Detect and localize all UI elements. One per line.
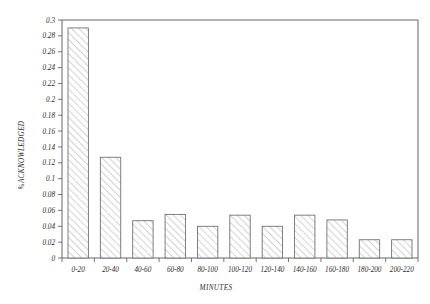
x-tick-label: 20-40	[102, 266, 119, 274]
y-tick-label: 0.18	[42, 112, 55, 120]
y-tick-label: 0.08	[42, 191, 55, 199]
bar	[295, 215, 315, 258]
bar	[359, 240, 379, 258]
x-tick-label: 160-180	[325, 266, 349, 274]
y-axis-title: %ACKNOWLEDGED	[18, 120, 26, 189]
y-tick-label: 0.12	[42, 159, 55, 167]
x-tick-label: 0-20	[72, 266, 86, 274]
x-tick-label: 200-220	[390, 266, 414, 274]
bar	[165, 214, 185, 258]
x-axis-tick-labels: 0-2020-4040-6060-8080-100100-120120-1401…	[72, 266, 415, 274]
histogram-chart: 00.020.040.060.080.10.120.140.160.180.20…	[0, 0, 430, 304]
bar	[262, 226, 282, 258]
bar	[100, 157, 120, 258]
y-tick-label: 0	[51, 255, 55, 263]
x-tick-label: 140-160	[293, 266, 317, 274]
chart-canvas: 00.020.040.060.080.10.120.140.160.180.20…	[0, 0, 430, 304]
x-tick-label: 80-100	[197, 266, 218, 274]
x-tick-label: 180-200	[357, 266, 381, 274]
y-tick-label: 0.06	[42, 207, 55, 215]
bar-series	[68, 28, 412, 258]
x-tick-label: 40-60	[135, 266, 152, 274]
bar	[197, 226, 217, 258]
x-tick-label: 100-120	[228, 266, 252, 274]
y-axis-ticks: 00.020.040.060.080.10.120.140.160.180.20…	[42, 17, 62, 263]
y-tick-label: 0.02	[42, 239, 55, 247]
x-tick-label: 120-140	[260, 266, 284, 274]
x-tick-label: 60-80	[167, 266, 184, 274]
x-axis-title: MINUTES	[199, 284, 233, 292]
bar	[327, 220, 347, 258]
y-tick-label: 0.26	[42, 48, 55, 56]
y-tick-label: 0.2	[46, 96, 55, 104]
bar	[230, 215, 250, 258]
bar	[133, 221, 153, 258]
y-tick-label: 0.22	[42, 80, 55, 88]
y-tick-label: 0.16	[42, 128, 55, 136]
bar	[68, 28, 88, 258]
y-tick-label: 0.1	[46, 175, 55, 183]
y-tick-label: 0.04	[42, 223, 55, 231]
x-axis-ticks	[62, 258, 418, 262]
y-tick-label: 0.14	[42, 144, 55, 152]
y-tick-label: 0.24	[42, 64, 55, 72]
y-tick-label: 0.3	[46, 17, 55, 25]
bar	[392, 240, 412, 258]
y-tick-label: 0.28	[42, 32, 55, 40]
